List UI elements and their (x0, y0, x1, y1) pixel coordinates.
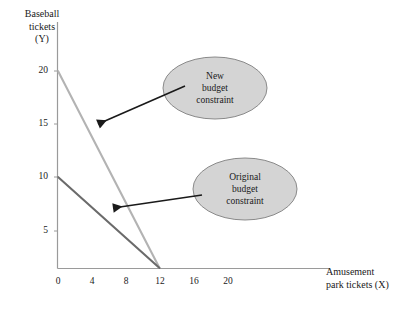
x-tick-label-20: 20 (216, 276, 240, 286)
y-tick-label-5: 5 (28, 225, 48, 235)
callout-label-original-budget-constraint: Original budget constraint (193, 158, 297, 220)
x-tick-label-4: 4 (80, 276, 104, 286)
y-tick-label-10: 10 (28, 171, 48, 181)
y-axis-title: Baseball tickets (Y) (6, 8, 78, 46)
chart-figure: Baseball tickets (Y) Amusement park tick… (0, 0, 409, 314)
x-tick-label-12: 12 (148, 276, 172, 286)
x-axis-title: Amusement park tickets (X) (326, 266, 408, 291)
x-tick-label-8: 8 (114, 276, 138, 286)
series-line-original-budget-constraint (58, 177, 160, 268)
x-tick-label-0: 0 (46, 276, 70, 286)
series-line-new-budget-constraint (58, 71, 160, 268)
y-tick-label-15: 15 (28, 118, 48, 128)
x-tick-label-16: 16 (182, 276, 206, 286)
y-tick-label-20: 20 (28, 65, 48, 75)
callout-label-new-budget-constraint: New budget constraint (163, 57, 267, 119)
